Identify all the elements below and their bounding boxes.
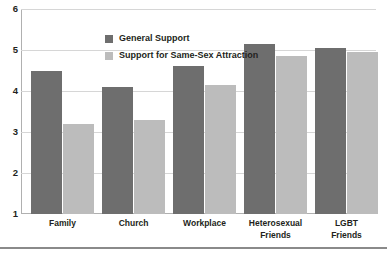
x-label-lgbt-friends: LGBT Friends bbox=[304, 218, 387, 241]
y-tick-label: 4 bbox=[2, 86, 18, 96]
bar-group-lgbt-friends bbox=[315, 9, 378, 214]
bar-lgbt-friends-general-support[interactable] bbox=[315, 48, 346, 214]
bar-chart: 6 5 4 3 2 1 bbox=[0, 0, 387, 253]
bar-heterosexual-friends-same-sex-attraction[interactable] bbox=[276, 56, 307, 214]
legend-item-general-support[interactable]: General Support bbox=[105, 32, 258, 45]
legend-swatch-icon bbox=[105, 52, 113, 60]
bar-family-general-support[interactable] bbox=[31, 71, 62, 215]
y-tick-label: 5 bbox=[2, 45, 18, 55]
legend-label: General Support bbox=[119, 34, 190, 43]
bar-family-same-sex-attraction[interactable] bbox=[63, 124, 94, 214]
bar-lgbt-friends-same-sex-attraction[interactable] bbox=[347, 52, 378, 214]
bar-workplace-same-sex-attraction[interactable] bbox=[205, 85, 236, 214]
bar-workplace-general-support[interactable] bbox=[173, 66, 204, 214]
bottom-divider bbox=[0, 247, 387, 249]
bar-church-general-support[interactable] bbox=[102, 87, 133, 214]
y-tick-label: 3 bbox=[2, 127, 18, 137]
x-label-line: Friends bbox=[304, 230, 387, 242]
y-axis-tick-labels: 6 5 4 3 2 1 bbox=[0, 9, 18, 214]
bar-group-family bbox=[31, 9, 94, 214]
bar-heterosexual-friends-general-support[interactable] bbox=[244, 44, 275, 214]
legend-label: Support for Same-Sex Attraction bbox=[119, 51, 258, 60]
plot-area: General Support Support for Same-Sex Att… bbox=[21, 9, 376, 214]
y-tick-label: 6 bbox=[2, 4, 18, 14]
chart-legend: General Support Support for Same-Sex Att… bbox=[105, 32, 258, 66]
y-tick-label: 2 bbox=[2, 168, 18, 178]
bar-church-same-sex-attraction[interactable] bbox=[134, 120, 165, 214]
legend-item-same-sex-attraction[interactable]: Support for Same-Sex Attraction bbox=[105, 49, 258, 62]
legend-swatch-icon bbox=[105, 35, 113, 43]
x-label-line: LGBT bbox=[304, 218, 387, 230]
